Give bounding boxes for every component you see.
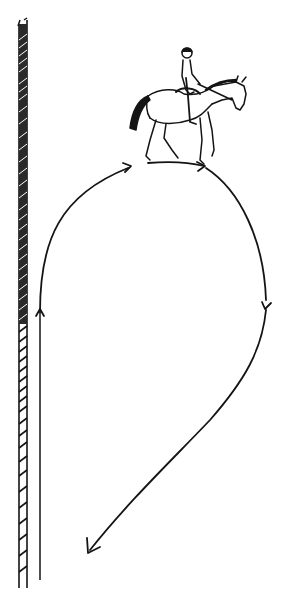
riding-diagram [0, 0, 291, 607]
right-side-arrow-icon [262, 302, 271, 309]
teardrop-path [40, 162, 266, 550]
arena-wall [18, 18, 27, 588]
horse-and-rider [130, 48, 246, 164]
